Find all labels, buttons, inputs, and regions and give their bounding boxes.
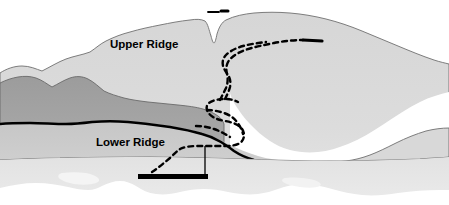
upper-ridge-label: Upper Ridge xyxy=(110,38,178,50)
route-end-marker xyxy=(303,40,322,41)
lower-ridge-label: Lower Ridge xyxy=(96,136,165,148)
route-top-marker xyxy=(208,11,228,12)
ridge-diagram: Upper Ridge Lower Ridge xyxy=(0,0,449,205)
diagram-canvas: Upper Ridge Lower Ridge xyxy=(0,0,449,205)
boat-hull xyxy=(138,174,208,179)
